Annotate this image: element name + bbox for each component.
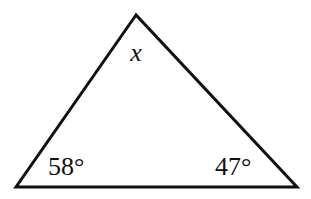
top-angle-label: x bbox=[129, 38, 142, 67]
triangle-diagram: x 58° 47° bbox=[0, 0, 311, 199]
bottom-right-angle-label: 47° bbox=[215, 152, 251, 181]
bottom-left-angle-label: 58° bbox=[48, 152, 84, 181]
triangle-figure: x 58° 47° bbox=[0, 0, 311, 199]
